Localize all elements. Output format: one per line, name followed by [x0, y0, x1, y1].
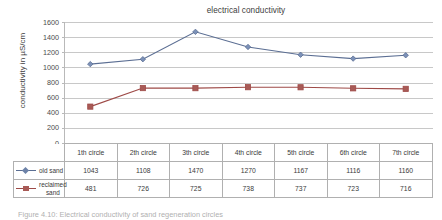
data-point-marker	[351, 86, 356, 91]
data-point-marker	[88, 61, 93, 66]
figure-caption: Figure 4.10: Electrical conductivity of …	[18, 210, 428, 219]
table-row: reclaimed sand 481 726 725 738 737 723 7…	[14, 180, 433, 198]
column-header: 7th circle	[380, 144, 433, 162]
y-axis-tick-label: 200	[23, 124, 59, 131]
data-point-marker	[350, 56, 355, 61]
column-header: 4th circle	[222, 144, 275, 162]
data-point-marker	[140, 85, 145, 90]
table-cell: 1116	[327, 162, 380, 180]
data-point-marker	[193, 86, 198, 91]
table-cell: 738	[222, 180, 275, 198]
column-header: 5th circle	[275, 144, 328, 162]
y-axis-tick-label: 1600	[23, 19, 59, 26]
table-cell: 725	[170, 180, 223, 198]
chart-figure: electrical conductivity conductivity in …	[0, 0, 442, 220]
table-cell: 481	[65, 180, 118, 198]
table-row: old sand 1043 1108 1470 1270 1167 1116 1…	[14, 162, 433, 180]
y-axis-tick-label: 600	[23, 94, 59, 101]
legend-marker-square-icon	[16, 184, 36, 193]
table-cell: 723	[327, 180, 380, 198]
data-point-marker	[245, 85, 250, 90]
table-cell: 1160	[380, 162, 433, 180]
table-cell: 737	[275, 180, 328, 198]
data-point-marker	[298, 85, 303, 90]
y-axis-tick-label: 1200	[23, 49, 59, 56]
table-row-header: 1th circle 2th circle 3th circle 4th cir…	[14, 144, 433, 162]
y-axis-tick-label: 800	[23, 79, 59, 86]
table-cell: 1270	[222, 162, 275, 180]
data-point-marker	[403, 86, 408, 91]
series-overlay	[64, 22, 432, 143]
column-header: 2th circle	[117, 144, 170, 162]
data-table: 1th circle 2th circle 3th circle 4th cir…	[13, 143, 433, 198]
chart-title: electrical conductivity	[60, 6, 432, 15]
legend-marker-diamond-icon	[16, 166, 36, 175]
column-header: 6th circle	[327, 144, 380, 162]
data-point-marker	[298, 52, 303, 57]
column-header: 3th circle	[170, 144, 223, 162]
data-point-marker	[140, 57, 145, 62]
data-point-marker	[245, 44, 250, 49]
table-cell: 1108	[117, 162, 170, 180]
legend-item-reclaimed-sand: reclaimed sand	[14, 180, 65, 198]
data-point-marker	[88, 104, 93, 109]
y-axis-tick-label: 400	[23, 109, 59, 116]
y-axis-tick-label: 1000	[23, 64, 59, 71]
table-cell: 1470	[170, 162, 223, 180]
legend-label: old sand	[39, 167, 63, 174]
legend-label: reclaimed sand	[39, 181, 67, 196]
table-cell: 1167	[275, 162, 328, 180]
legend-header-blank	[14, 144, 65, 162]
column-header: 1th circle	[65, 144, 118, 162]
table-cell: 1043	[65, 162, 118, 180]
data-point-marker	[193, 29, 198, 34]
table-cell: 716	[380, 180, 433, 198]
data-point-marker	[403, 53, 408, 58]
y-axis-tick-label: 1400	[23, 34, 59, 41]
legend-item-old-sand: old sand	[14, 162, 65, 180]
table-cell: 726	[117, 180, 170, 198]
